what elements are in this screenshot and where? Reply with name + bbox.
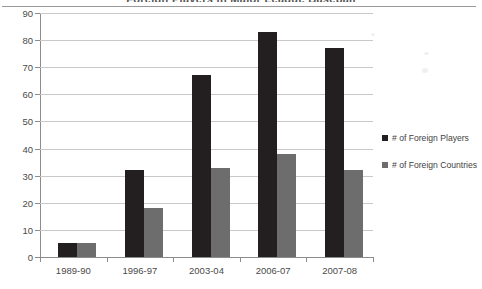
bar xyxy=(192,75,211,257)
bar xyxy=(144,208,163,257)
y-axis-tick xyxy=(35,203,40,204)
bar-group xyxy=(325,13,363,257)
scan-artifact xyxy=(424,52,429,55)
x-axis-tick xyxy=(373,257,374,262)
x-axis-tick xyxy=(173,257,174,262)
legend-item[interactable]: # of Foreign Players xyxy=(382,133,480,143)
black-square-icon xyxy=(382,135,388,141)
chart-top-rule xyxy=(2,6,476,7)
y-axis-label: 50 xyxy=(22,116,33,127)
bar-group xyxy=(192,13,230,257)
bar xyxy=(325,48,344,257)
bar-chart: Foreign Players in Major League Baseball… xyxy=(0,0,482,289)
y-axis-tick xyxy=(35,67,40,68)
bar xyxy=(77,243,96,257)
x-axis-label: 2006-07 xyxy=(240,265,307,276)
bar xyxy=(58,243,77,257)
scan-artifact xyxy=(371,33,375,36)
bar xyxy=(125,170,144,257)
y-axis-tick xyxy=(35,13,40,14)
y-axis-tick xyxy=(35,149,40,150)
x-axis-tick xyxy=(40,257,41,262)
y-axis-tick xyxy=(35,121,40,122)
y-axis-tick xyxy=(35,230,40,231)
bar xyxy=(211,168,230,257)
y-axis-tick xyxy=(35,176,40,177)
scan-artifact xyxy=(422,68,428,73)
y-axis-label: 80 xyxy=(22,35,33,46)
bar-group xyxy=(58,13,96,257)
x-axis-tick xyxy=(306,257,307,262)
y-axis-label: 10 xyxy=(22,224,33,235)
x-axis-tick xyxy=(107,257,108,262)
gray-square-icon xyxy=(382,162,388,168)
plot-area: 01020304050607080901989-901996-972003-04… xyxy=(40,13,373,257)
bar-group xyxy=(258,13,296,257)
x-axis-label: 1989-90 xyxy=(40,265,107,276)
chart-legend: # of Foreign Players# of Foreign Countri… xyxy=(382,133,480,187)
x-axis-label: 1996-97 xyxy=(107,265,174,276)
x-axis-tick xyxy=(240,257,241,262)
bar xyxy=(277,154,296,257)
y-axis-label: 20 xyxy=(22,197,33,208)
y-axis-label: 0 xyxy=(28,252,33,263)
y-axis-label: 30 xyxy=(22,170,33,181)
bar-group xyxy=(125,13,163,257)
y-axis xyxy=(40,13,41,257)
bar xyxy=(344,170,363,257)
x-axis-label: 2007-08 xyxy=(306,265,373,276)
y-axis-label: 70 xyxy=(22,62,33,73)
y-axis-label: 60 xyxy=(22,89,33,100)
legend-item-label: # of Foreign Countries xyxy=(392,160,477,170)
x-axis-label: 2003-04 xyxy=(173,265,240,276)
legend-item[interactable]: # of Foreign Countries xyxy=(382,160,480,170)
legend-item-label: # of Foreign Players xyxy=(392,133,469,143)
y-axis-tick xyxy=(35,94,40,95)
chart-title: Foreign Players in Major League Baseball xyxy=(0,0,482,2)
y-axis-label: 90 xyxy=(22,8,33,19)
y-axis-tick xyxy=(35,40,40,41)
y-axis-label: 40 xyxy=(22,143,33,154)
bar xyxy=(258,32,277,257)
gridline xyxy=(40,257,373,258)
